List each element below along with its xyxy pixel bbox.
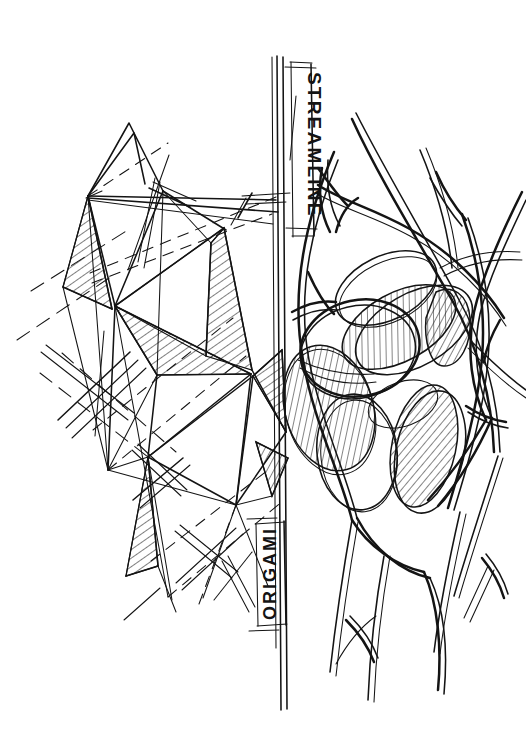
streamline-label: STREAMLINE (304, 72, 325, 218)
sketch-page: STREAMLINE ORIGAMI (0, 0, 526, 752)
sketch-canvas: STREAMLINE ORIGAMI (0, 0, 526, 752)
origami-stray-strokes (41, 155, 290, 620)
origami-label: ORIGAMI (260, 527, 280, 620)
